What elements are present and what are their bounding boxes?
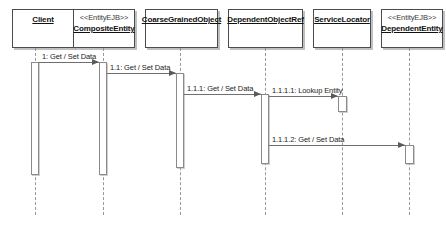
participant-name-dependent-entity: DependentEntity xyxy=(381,23,442,34)
participant-service-locator[interactable]: ServiceLocator xyxy=(313,9,371,48)
message-arrowhead-1-1-1-2 xyxy=(398,142,405,148)
participant-name-service-locator: ServiceLocator xyxy=(314,14,370,25)
participant-stereotype-dependent-entity: <<EntityEJB>> xyxy=(388,13,437,23)
message-line-1 xyxy=(39,62,99,63)
participant-stereotype-composite-entity: <<EntityEJB>> xyxy=(80,13,129,23)
message-line-1-1 xyxy=(107,73,176,74)
participant-name-composite-entity: CompositeEntity xyxy=(73,23,134,34)
message-line-1-1-1 xyxy=(184,94,261,95)
sequence-diagram-canvas: 1: Get / Set Data 1.1: Get / Set Data 1.… xyxy=(0,0,446,228)
message-line-1-1-1-2 xyxy=(269,145,405,146)
message-label-1-1-1: 1.1.1: Get / Set Data xyxy=(187,84,253,93)
lifeline-dependent-entity xyxy=(409,48,410,215)
message-label-1: 1: Get / Set Data xyxy=(42,52,96,61)
participant-name-coarse-grained-object: CoarseGrainedObject xyxy=(142,14,221,25)
activation-dependent-object-ref xyxy=(261,94,269,164)
activation-composite-entity xyxy=(99,62,107,175)
activation-service-locator xyxy=(338,96,347,112)
lifeline-service-locator xyxy=(342,48,343,215)
message-label-1-1: 1.1: Get / Set Data xyxy=(110,63,170,72)
message-arrowhead-1-1-1 xyxy=(254,91,261,97)
activation-dependent-entity xyxy=(405,145,414,164)
participant-dependent-object-ref[interactable]: DependentObjectRef xyxy=(228,9,303,48)
message-label-1-1-1-2: 1.1.1.2: Get / Set Data xyxy=(272,135,344,144)
participant-name-client: Client xyxy=(32,14,53,25)
activation-client xyxy=(31,62,39,175)
message-label-1-1-1-1: 1.1.1.1: Lookup Entity xyxy=(272,86,342,95)
activation-coarse-grained-object xyxy=(176,73,184,168)
participant-dependent-entity[interactable]: <<EntityEJB>> DependentEntity xyxy=(381,9,443,48)
participant-composite-entity[interactable]: <<EntityEJB>> CompositeEntity xyxy=(73,9,135,48)
participant-coarse-grained-object[interactable]: CoarseGrainedObject xyxy=(145,9,218,48)
participant-name-dependent-object-ref: DependentObjectRef xyxy=(227,14,303,25)
participant-client[interactable]: Client xyxy=(12,9,74,48)
message-line-1-1-1-1 xyxy=(269,96,338,97)
